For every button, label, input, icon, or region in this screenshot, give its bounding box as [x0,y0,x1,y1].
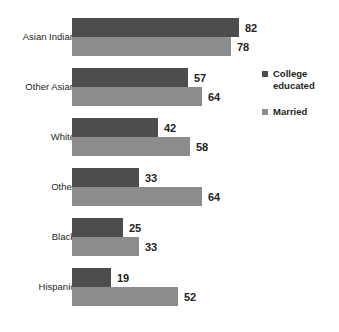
bar-married[interactable] [72,87,202,106]
legend-label: Married [273,106,307,117]
bar-married[interactable] [72,287,178,306]
bar-value-label: 64 [208,91,220,103]
bar-college-educated[interactable] [72,168,139,187]
bar-group: Asian Indian8278 [0,18,339,56]
category-label: Asian Indian [0,32,75,42]
bar-college-educated[interactable] [72,268,111,287]
category-label: Other [0,182,75,192]
bar-college-educated[interactable] [72,18,239,37]
bar-married[interactable] [72,187,202,206]
category-label: White [0,132,75,142]
bar-value-label: 78 [237,41,249,53]
plot-area: Asian Indian8278Other Asian5764White4258… [0,0,339,332]
legend-item[interactable]: College educated [262,68,339,92]
bar-row: 78 [72,37,339,56]
bar-value-label: 25 [129,222,141,234]
bar-value-label: 64 [208,191,220,203]
bar-value-label: 42 [164,122,176,134]
legend-label: College educated [273,68,315,91]
bar-row: 33 [72,168,339,187]
bar-college-educated[interactable] [72,68,188,87]
bar-row: 33 [72,237,339,256]
bar-value-label: 19 [117,272,129,284]
bar-college-educated[interactable] [72,218,123,237]
bar-value-label: 33 [145,172,157,184]
bar-married[interactable] [72,237,139,256]
legend-item[interactable]: Married [262,106,339,118]
chart-legend: College educatedMarried [262,68,339,132]
category-label: Black [0,232,75,242]
bar-row: 19 [72,268,339,287]
category-label: Hispanic [0,282,75,292]
bar-college-educated[interactable] [72,118,158,137]
bar-group: Black2533 [0,218,339,256]
bar-group: Hispanic1952 [0,268,339,306]
legend-swatch-icon [262,109,268,115]
bar-value-label: 82 [245,22,257,34]
bar-value-label: 33 [145,241,157,253]
category-label: Other Asian [0,82,75,92]
bar-chart: Asian Indian8278Other Asian5764White4258… [0,0,339,332]
bar-married[interactable] [72,37,231,56]
bar-value-label: 57 [194,72,206,84]
bar-row: 82 [72,18,339,37]
bar-row: 52 [72,287,339,306]
legend-swatch-icon [262,71,268,77]
bar-row: 58 [72,137,339,156]
bar-value-label: 52 [184,291,196,303]
bar-row: 64 [72,187,339,206]
bar-group: Other3364 [0,168,339,206]
bar-row: 25 [72,218,339,237]
bar-value-label: 58 [196,141,208,153]
bar-married[interactable] [72,137,190,156]
